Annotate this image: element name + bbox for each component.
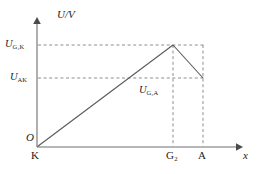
y-axis-arrow-icon	[33, 17, 41, 24]
curve-segment-falling	[173, 45, 203, 78]
annotation-u-g2a-symbol: U	[139, 84, 147, 95]
y-axis-label: U/V	[57, 9, 75, 20]
annotation-u-g2a-subscript: G₂A	[147, 89, 159, 96]
plot-canvas	[0, 0, 264, 174]
y-tick-label-u-g2k-subscript: G₂K	[13, 43, 25, 50]
potential-distribution-figure: U/V x UG₂K UAK UG₂A O K G₂ A	[0, 0, 264, 174]
x-tick-label-a: A	[198, 150, 206, 161]
y-tick-label-u-ak-subscript: AK	[18, 76, 27, 83]
y-tick-label-u-ak-symbol: U	[10, 71, 18, 82]
y-tick-label-u-ak: UAK	[10, 72, 27, 83]
origin-label: O	[26, 132, 34, 143]
x-axis-label: x	[243, 150, 248, 161]
x-tick-label-g2: G₂	[166, 150, 178, 161]
y-tick-label-u-g2k: UG₂K	[5, 39, 24, 50]
y-tick-label-u-g2k-symbol: U	[5, 38, 13, 49]
x-tick-label-k: K	[31, 150, 39, 161]
annotation-u-g2a: UG₂A	[139, 85, 158, 96]
x-axis-arrow-icon	[236, 143, 243, 151]
